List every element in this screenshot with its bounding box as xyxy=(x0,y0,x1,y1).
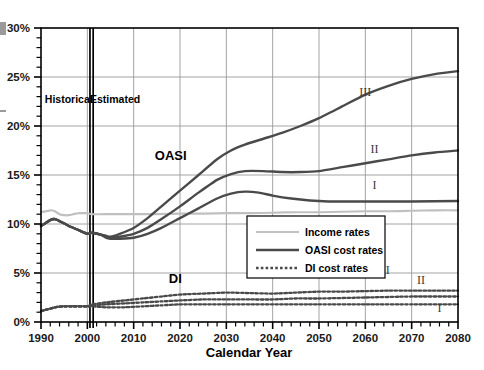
x-axis-tick-label: 2020 xyxy=(167,332,193,344)
oasi-II-label: II xyxy=(371,142,379,156)
legend-label-2: OASI cost rates xyxy=(305,244,383,256)
x-axis-tick-label: 2050 xyxy=(306,332,332,344)
oasi-I-label: I xyxy=(373,178,377,192)
legend-label-1: Income rates xyxy=(305,226,370,238)
chart-container: 0%5%10%15%20%25%30% 19902000201020202030… xyxy=(0,0,484,370)
x-axis-tick-label: 2080 xyxy=(445,332,471,344)
y-axis-tick-label: 5% xyxy=(13,267,30,279)
legend-label-3: DI cost rates xyxy=(305,262,368,274)
estimated-label: Estimated xyxy=(90,93,140,105)
y-axis-tick-label: 20% xyxy=(7,120,30,132)
ssa-cost-rate-chart: 0%5%10%15%20%25%30% 19902000201020202030… xyxy=(0,0,484,370)
y-axis-tick-label: 10% xyxy=(7,218,30,230)
scan-artifact-mark-mid xyxy=(0,110,6,112)
di-II-label: II xyxy=(417,273,425,287)
y-axis-tick-label: 30% xyxy=(7,22,30,34)
oasi-group-label: OASI xyxy=(155,148,187,163)
scan-artifact-mark-top xyxy=(0,22,6,35)
di-group-label: DI xyxy=(169,271,182,286)
y-axis-tick-label: 15% xyxy=(7,169,30,181)
x-axis-tick-label: 2010 xyxy=(121,332,147,344)
x-axis-tick-label: 1990 xyxy=(28,332,54,344)
x-axis-tick-label: 2000 xyxy=(75,332,101,344)
x-axis-tick-label: 2040 xyxy=(260,332,286,344)
di-I-label: I xyxy=(437,301,441,315)
y-axis-tick-label: 25% xyxy=(7,71,30,83)
x-axis-tick-label: 2060 xyxy=(353,332,379,344)
x-axis-title: Calendar Year xyxy=(206,345,292,360)
historical-label: Historical xyxy=(45,93,93,105)
chart-legend: Income ratesOASI cost ratesDI cost rates xyxy=(247,216,385,278)
x-axis-tick-label: 2070 xyxy=(399,332,425,344)
x-axis-tick-label: 2030 xyxy=(214,332,240,344)
oasi-III-label: III xyxy=(359,85,371,99)
y-axis-tick-label: 0% xyxy=(13,316,30,328)
